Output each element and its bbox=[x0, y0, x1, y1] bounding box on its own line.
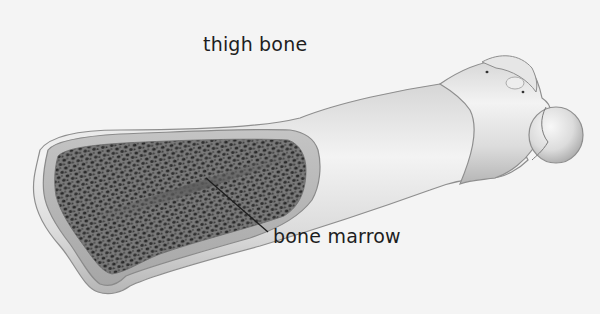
thigh-bone-label: thigh bone bbox=[203, 33, 307, 55]
femoral-head bbox=[529, 107, 583, 163]
bone-marrow-label: bone marrow bbox=[273, 225, 401, 247]
